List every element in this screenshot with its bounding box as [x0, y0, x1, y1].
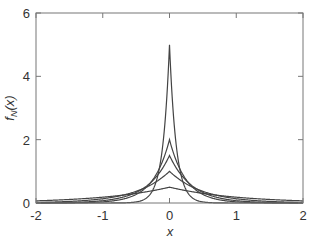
- x-tick-label: 0: [166, 208, 173, 223]
- y-tick-label: 0: [23, 196, 30, 211]
- x-tick-label: 1: [233, 208, 240, 223]
- y-tick-label: 2: [23, 133, 30, 148]
- x-axis-label: x: [166, 224, 174, 239]
- y-axis-label: fN(x): [2, 95, 19, 120]
- series-lines: [36, 45, 303, 203]
- axis-ticks: [36, 13, 303, 203]
- y-tick-labels: 0246: [23, 6, 30, 211]
- x-tick-label: -1: [97, 208, 109, 223]
- plot-frame: [36, 13, 303, 203]
- chart: -2-1012 0246 x fN(x): [0, 0, 314, 241]
- series-line-n-10: [36, 45, 303, 203]
- x-tick-labels: -2-1012: [30, 208, 306, 223]
- y-tick-label: 6: [23, 6, 30, 21]
- x-tick-label: -2: [30, 208, 42, 223]
- x-tick-label: 2: [299, 208, 306, 223]
- series-line-n-3: [36, 156, 303, 203]
- y-tick-label: 4: [23, 69, 30, 84]
